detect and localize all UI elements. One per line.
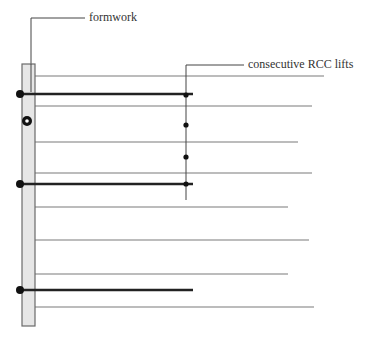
rcc-marker-dot — [183, 92, 188, 97]
rcc-marker-dot — [183, 122, 188, 127]
tie-rods — [16, 90, 193, 294]
rcc-marker-dot — [183, 181, 188, 186]
formwork-diagram — [0, 0, 366, 339]
formwork-panel — [22, 64, 35, 326]
formwork-leader — [31, 18, 85, 92]
rcc-marker-dot — [183, 154, 188, 159]
formwork-label: formwork — [89, 11, 137, 23]
rcc-leader — [186, 65, 244, 200]
rcc-lifts-label: consecutive RCC lifts — [248, 58, 353, 70]
tie-rod — [16, 180, 193, 188]
tie-rod — [16, 90, 193, 98]
tie-rod — [16, 286, 193, 294]
rcc-lift-lines — [35, 76, 324, 307]
anchor-bolt-icon — [22, 116, 32, 126]
